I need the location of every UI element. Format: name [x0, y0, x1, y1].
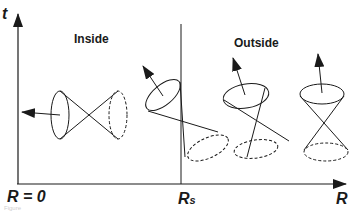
- future-arrow: [143, 66, 163, 96]
- outside-label: Outside: [234, 36, 279, 50]
- rs-label: Rs: [178, 190, 196, 208]
- light-cone-inside-left: [22, 91, 127, 139]
- light-cone-boundary: [140, 66, 232, 166]
- origin-label: R = 0: [7, 188, 46, 206]
- rs-label-main: R: [178, 190, 190, 207]
- r-axis-label: R: [336, 190, 348, 208]
- rs-label-subscript: s: [190, 194, 196, 206]
- light-cone-outside-middle: [221, 58, 289, 161]
- light-cone-diagram: [0, 0, 364, 215]
- future-arrow: [233, 58, 245, 95]
- future-arrow: [318, 54, 322, 93]
- figure-caption: Figure: [4, 205, 21, 211]
- t-axis-label: t: [2, 5, 7, 23]
- light-cone-outside-right: [300, 54, 348, 161]
- future-arrow: [22, 112, 60, 115]
- inside-label: Inside: [74, 32, 109, 46]
